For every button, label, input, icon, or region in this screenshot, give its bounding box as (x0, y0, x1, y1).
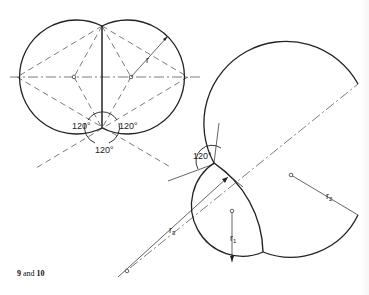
radius-label: r (146, 55, 149, 65)
angle-label-bottom: 120° (95, 145, 114, 155)
r3-center-point (125, 269, 129, 273)
radius-label-r1: r1 (230, 233, 237, 244)
radius-r2-line (291, 175, 358, 215)
large-circle-lower-arc (263, 215, 358, 257)
radius-label-r2: r2 (326, 191, 333, 202)
tangent-line-2 (214, 123, 219, 163)
radius-r1-arrowhead (230, 256, 234, 262)
small-center-point (230, 209, 234, 213)
radius-r3-line (118, 177, 228, 277)
boundary-arc-r3 (214, 163, 263, 252)
tangent-line-1 (168, 164, 214, 181)
angle-label-120: 120° (193, 151, 212, 161)
left-center-point (72, 75, 76, 79)
page-edge-shadow (359, 0, 369, 295)
geometry-figure: 120° 120° 120° r 120° r2 r1 (0, 0, 369, 295)
large-center-point (289, 173, 293, 177)
radius-dimension-line (131, 36, 168, 77)
right-labels: 120° r2 r1 r3 (169, 151, 333, 244)
figure-caption: 9 and 10 (17, 269, 45, 278)
angle-label-left: 120° (72, 121, 91, 131)
tangent-line-3 (214, 163, 243, 187)
angle-label-right: 120° (119, 121, 138, 131)
centers-line (130, 84, 358, 268)
radius-label-r3: r3 (169, 225, 176, 236)
large-circle-arc (204, 41, 358, 163)
